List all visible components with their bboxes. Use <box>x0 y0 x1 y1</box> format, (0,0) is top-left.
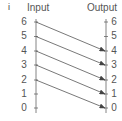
output-axis <box>104 19 108 113</box>
arrow-3-to-1 <box>36 65 105 94</box>
arrow-6-to-4 <box>36 22 105 51</box>
diagram-graphics <box>0 0 122 121</box>
arrow-5-to-3 <box>36 37 105 66</box>
mapping-arrows <box>36 22 105 108</box>
arrow-2-to-0 <box>36 80 105 108</box>
arrow-4-to-2 <box>36 51 105 80</box>
